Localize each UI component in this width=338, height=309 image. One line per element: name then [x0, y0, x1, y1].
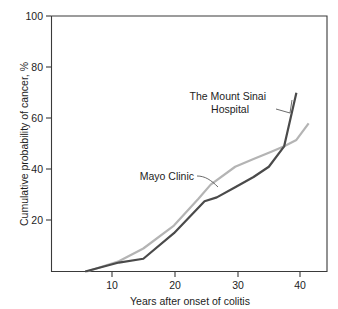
y-tick-label-80: 80: [31, 61, 43, 73]
mount-sinai-label-line2: Hospital: [211, 103, 249, 115]
x-tick-label-10: 10: [106, 279, 118, 291]
x-tick-label-30: 30: [232, 279, 244, 291]
mount-sinai-label-line1: The Mount Sinai: [190, 90, 266, 102]
mayo-clinic-label: Mayo Clinic: [140, 170, 194, 182]
y-tick-label-40: 40: [31, 163, 43, 175]
figure-container: 100 80 60 40 20 10 20 30 40 Years after …: [0, 0, 338, 309]
y-tick-label-60: 60: [31, 112, 43, 124]
y-tick-label-100: 100: [25, 10, 43, 22]
x-tick-label-40: 40: [294, 279, 306, 291]
y-axis-title: Cumulative probability of cancer, %: [18, 62, 30, 226]
y-tick-label-20: 20: [31, 214, 43, 226]
cumulative-probability-line-chart: 100 80 60 40 20 10 20 30 40 Years after …: [0, 0, 338, 309]
chart-background: [0, 0, 338, 309]
x-axis-title: Years after onset of colitis: [130, 295, 250, 307]
x-tick-label-20: 20: [169, 279, 181, 291]
